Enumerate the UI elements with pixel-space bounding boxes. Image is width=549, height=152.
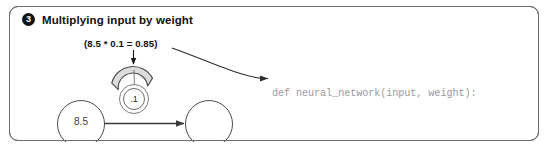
weight-knob[interactable]: .1 [119, 84, 149, 114]
diagram-to-code-arrow [172, 48, 268, 79]
code-line-def: def neural_network(input, weight): [272, 84, 476, 104]
weight-knob-inner: .1 [123, 88, 145, 110]
step-number-badge: 3 [22, 13, 35, 26]
weight-knob-value: .1 [130, 95, 138, 104]
page-title: Multiplying input by weight [42, 14, 193, 26]
figure-root: 3 Multiplying input by weight (8.5 * 0.1… [0, 0, 549, 152]
code-block: def neural_network(input, weight): predi… [272, 44, 476, 152]
formula-label: (8.5 * 0.1 = 0.85) [84, 38, 158, 49]
input-node: 8.5 [57, 100, 105, 148]
panel-header: 3 Multiplying input by weight [22, 13, 193, 26]
input-node-label: 8.5 [74, 116, 88, 127]
output-node [185, 100, 233, 148]
code-line-prediction: prediction = input * weight [272, 144, 476, 152]
